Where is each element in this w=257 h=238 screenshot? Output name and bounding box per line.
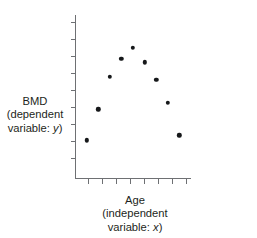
data-point (119, 57, 123, 61)
x-axis-tick (88, 179, 89, 184)
x-axis-tick (130, 179, 131, 184)
data-point (131, 45, 135, 49)
y-axis-title-line-3: variable: y) (0, 122, 70, 135)
y-axis-tick (71, 158, 76, 159)
y-axis-title: BMD (dependent variable: y) (0, 95, 70, 135)
y-axis-tick (71, 141, 76, 142)
y-axis-line (75, 15, 76, 179)
x-axis-tick (102, 179, 103, 184)
x-axis-title-variable-suffix: ) (159, 221, 163, 233)
y-axis-tick (71, 56, 76, 57)
x-axis-tick (172, 179, 173, 184)
y-axis-title-line-1: BMD (0, 95, 70, 108)
y-axis-tick (71, 39, 76, 40)
y-axis-tick (71, 73, 76, 74)
y-axis-title-variable-suffix: ) (59, 122, 63, 134)
data-point (177, 133, 181, 137)
y-axis-tick (71, 107, 76, 108)
x-axis-title-variable-prefix: variable: (108, 221, 153, 233)
y-axis-title-variable-prefix: variable: (8, 122, 53, 134)
x-axis-title-line-3: variable: x) (84, 221, 186, 234)
x-axis-tick (186, 179, 187, 184)
x-axis-line (75, 178, 191, 179)
data-point (108, 75, 112, 79)
scatter-plot-figure: BMD (dependent variable: y) Age (indepen… (0, 0, 257, 238)
x-axis-tick (144, 179, 145, 184)
y-axis-tick (71, 124, 76, 125)
x-axis-title: Age (independent variable: x) (84, 194, 186, 234)
data-point (142, 60, 146, 64)
x-axis-title-line-2: (independent (84, 207, 186, 220)
data-point (84, 138, 88, 142)
x-axis-tick (116, 179, 117, 184)
data-point (154, 78, 158, 82)
y-axis-tick (71, 22, 76, 23)
x-axis-tick (158, 179, 159, 184)
x-axis-title-line-1: Age (84, 194, 186, 207)
data-point (166, 101, 170, 105)
y-axis-tick (71, 90, 76, 91)
data-point (96, 107, 100, 111)
y-axis-title-line-2: (dependent (0, 108, 70, 121)
